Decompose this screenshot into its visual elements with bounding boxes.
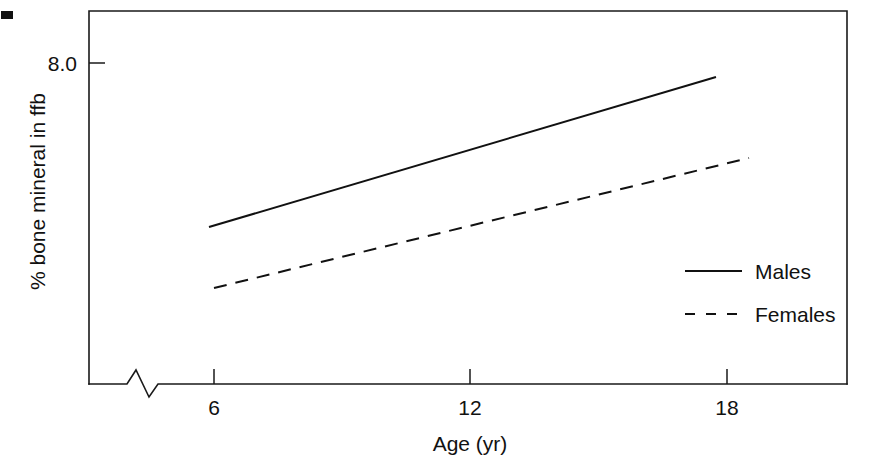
x-axis-line-with-break [89, 370, 847, 397]
legend-label-females: Females [755, 303, 836, 326]
series-line-females [214, 158, 749, 288]
x-axis-title: Age (yr) [433, 432, 508, 455]
figure-container: 8.0 % bone mineral in ffb 6 12 18 Age (y… [0, 0, 880, 473]
x-tick-label-1: 12 [458, 396, 481, 419]
x-tick-label-2: 18 [715, 396, 738, 419]
chart-canvas: 8.0 % bone mineral in ffb 6 12 18 Age (y… [0, 0, 880, 473]
y-axis-title: % bone mineral in ffb [26, 93, 49, 290]
y-tick-label-0: 8.0 [48, 52, 77, 75]
x-tick-label-0: 6 [208, 396, 220, 419]
series-line-males [209, 77, 716, 227]
registration-mark [1, 11, 13, 19]
plot-frame [89, 11, 847, 384]
legend-label-males: Males [755, 260, 811, 283]
